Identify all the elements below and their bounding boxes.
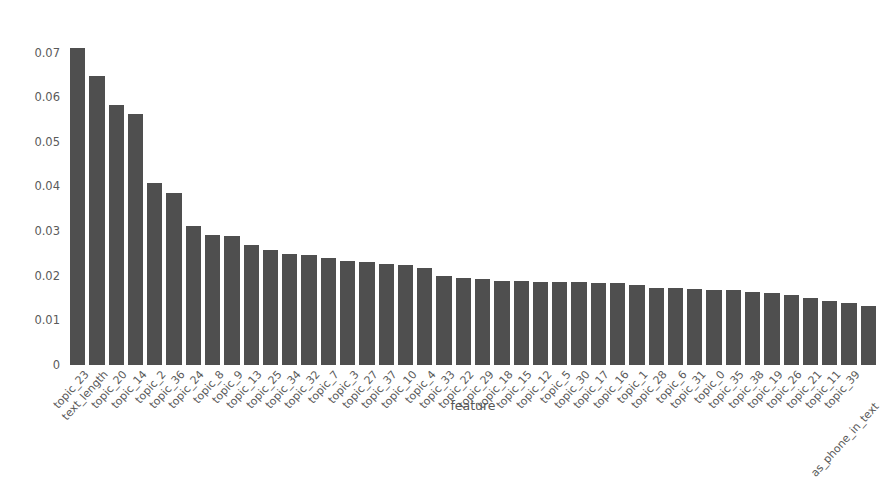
bar (398, 265, 413, 365)
bar (494, 281, 509, 365)
bar (841, 303, 856, 365)
bar (282, 254, 297, 365)
bar (109, 105, 124, 365)
bar (726, 290, 741, 365)
bar (147, 183, 162, 365)
y-axis-tick: 0.05 (34, 135, 60, 149)
bar (687, 289, 702, 365)
bar (764, 293, 779, 365)
bar (861, 306, 876, 365)
bar (533, 282, 548, 365)
bar (552, 282, 567, 365)
bar (668, 288, 683, 365)
bar-chart-figure: relative importance 00.010.020.030.040.0… (0, 0, 886, 481)
bar (514, 281, 529, 365)
x-axis-tick-group: topic_23text_lengthtopic_20topic_14topic… (68, 366, 878, 481)
bar (89, 76, 104, 365)
bar (186, 226, 201, 365)
y-axis-tick: 0.02 (34, 269, 60, 283)
y-axis-tick: 0.06 (34, 90, 60, 104)
bar (301, 255, 316, 365)
bar (784, 295, 799, 365)
bar (456, 278, 471, 365)
y-axis-tick: 0.03 (34, 224, 60, 238)
y-axis-tick: 0.07 (34, 46, 60, 60)
bar (417, 268, 432, 365)
bar (591, 283, 606, 365)
bar (166, 193, 181, 365)
bar (205, 235, 220, 365)
plot-area (68, 37, 878, 365)
x-axis-label: feature (68, 398, 878, 413)
y-axis-tick: 0.01 (34, 313, 60, 327)
bar (263, 250, 278, 365)
bar (803, 298, 818, 365)
bar (571, 282, 586, 365)
bar (128, 114, 143, 365)
bar (649, 288, 664, 365)
y-axis-tick: 0.04 (34, 179, 60, 193)
bar (475, 279, 490, 365)
bar (340, 261, 355, 365)
bar (822, 301, 837, 365)
bar (706, 290, 721, 365)
bar (610, 283, 625, 365)
bar (70, 48, 85, 365)
bar (359, 262, 374, 365)
bar (224, 236, 239, 365)
bar (629, 285, 644, 365)
bar (321, 258, 336, 365)
bar (244, 245, 259, 365)
bar (745, 292, 760, 365)
y-axis-tick: 0 (53, 358, 60, 372)
bar (379, 264, 394, 365)
bar (436, 276, 451, 365)
